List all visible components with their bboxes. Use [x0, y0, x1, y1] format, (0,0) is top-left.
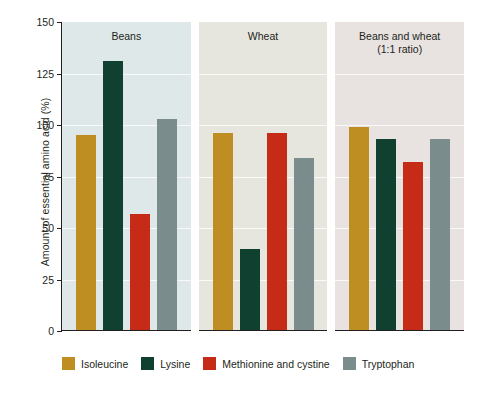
legend-item: Tryptophan [343, 357, 415, 370]
bar [430, 139, 450, 331]
bar-group [62, 22, 191, 331]
chart-panel: Wheat [199, 22, 328, 331]
legend-item: Lysine [141, 357, 190, 370]
legend-label: Tryptophan [362, 358, 415, 370]
bar [267, 133, 287, 331]
bar [213, 133, 233, 331]
y-axis-tick-label: 25 [42, 274, 54, 286]
bar-group [199, 22, 328, 331]
bar [157, 119, 177, 331]
amino-acid-bar-chart: Amount of essential amino acid (%) 15012… [0, 0, 477, 395]
y-axis-tick-label: 125 [36, 68, 54, 80]
bar [349, 127, 369, 331]
panel-baseline [199, 330, 328, 331]
bar [403, 162, 423, 331]
legend-swatch [62, 357, 75, 370]
legend-item: Methionine and cystine [203, 357, 329, 370]
bar [294, 158, 314, 331]
panel-baseline [62, 330, 191, 331]
legend-item: Isoleucine [62, 357, 128, 370]
legend-label: Isoleucine [81, 358, 128, 370]
chart-panel: Beans [62, 22, 191, 331]
chart-legend: IsoleucineLysineMethionine and cystineTr… [62, 357, 462, 370]
y-axis-tick-group: 1501251007550250 [0, 0, 62, 395]
bar-group [335, 22, 464, 331]
legend-label: Lysine [160, 358, 190, 370]
y-axis-tick-label: 100 [36, 119, 54, 131]
chart-panel: Beans and wheat(1:1 ratio) [335, 22, 464, 331]
y-axis-tick-label: 0 [48, 325, 54, 337]
bar [76, 135, 96, 331]
y-axis-tick-label: 75 [42, 171, 54, 183]
y-axis-tick-label: 150 [36, 16, 54, 28]
legend-label: Methionine and cystine [222, 358, 329, 370]
bar [130, 214, 150, 331]
legend-swatch [343, 357, 356, 370]
bar [240, 249, 260, 331]
bar [103, 61, 123, 331]
y-axis-tick-label: 50 [42, 222, 54, 234]
bar [376, 139, 396, 331]
y-axis-tick-mark [57, 331, 62, 332]
panel-baseline [335, 330, 464, 331]
legend-swatch [203, 357, 216, 370]
legend-swatch [141, 357, 154, 370]
panel-group: BeansWheatBeans and wheat(1:1 ratio) [62, 22, 464, 331]
